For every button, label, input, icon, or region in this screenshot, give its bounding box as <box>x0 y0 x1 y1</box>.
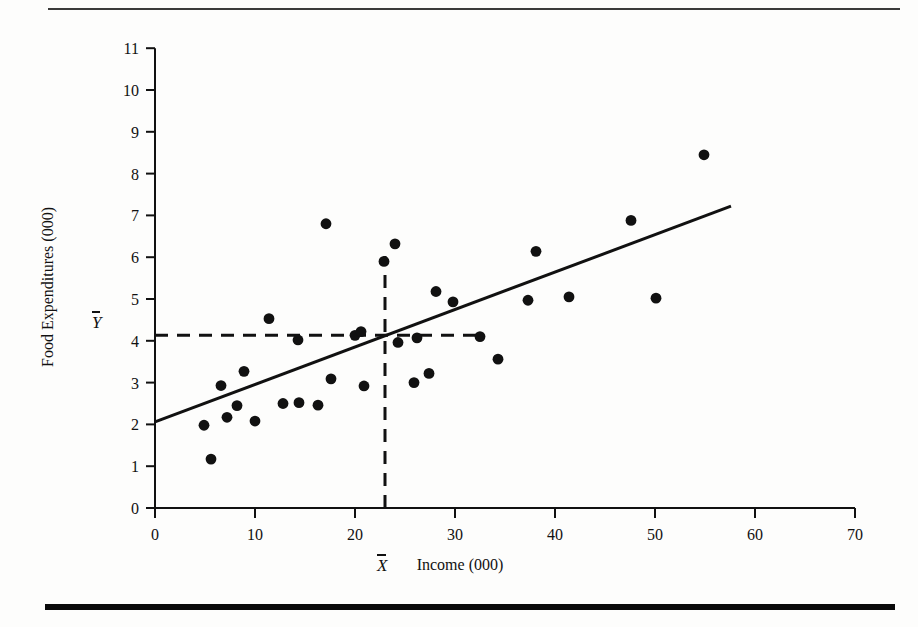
data-point <box>409 377 420 388</box>
y-axis-label: Food Expenditures (000) <box>39 177 57 397</box>
data-point <box>390 238 401 249</box>
y-tick-label: 0 <box>131 500 139 517</box>
x-tick-label: 0 <box>151 526 159 543</box>
data-point <box>651 293 662 304</box>
data-point <box>523 295 534 306</box>
x-tick-label: 60 <box>747 526 763 543</box>
x-mean-label: X <box>377 556 387 576</box>
y-tick-label: 6 <box>131 249 139 266</box>
y-tick-label: 9 <box>131 124 139 141</box>
data-point <box>199 420 210 431</box>
data-point <box>448 297 459 308</box>
data-point <box>356 326 367 337</box>
data-point <box>699 149 710 160</box>
data-point <box>294 397 305 408</box>
data-point <box>626 215 637 226</box>
x-tick-label: 50 <box>647 526 663 543</box>
data-point <box>250 416 261 427</box>
y-tick-label: 2 <box>131 416 139 433</box>
data-point <box>313 400 324 411</box>
y-tick-label: 5 <box>131 291 139 308</box>
regression-line <box>155 206 731 422</box>
x-tick-label: 40 <box>547 526 563 543</box>
data-point <box>431 286 442 297</box>
y-tick-label: 8 <box>131 166 139 183</box>
scatter-plot-figure: 01234567891011 010203040506070 <box>0 0 918 627</box>
x-tick-label: 70 <box>847 526 863 543</box>
data-point <box>264 313 275 324</box>
y-axis-ticks: 01234567891011 <box>123 40 155 517</box>
data-point <box>531 246 542 257</box>
data-point <box>239 366 250 377</box>
axes-lines <box>155 48 855 508</box>
y-tick-label: 1 <box>131 458 139 475</box>
x-axis-label: Income (000) <box>417 556 504 574</box>
x-tick-label: 30 <box>447 526 463 543</box>
y-tick-label: 3 <box>131 375 139 392</box>
y-mean-label-text: Y <box>92 313 101 333</box>
x-mean-label-text: X <box>377 556 387 576</box>
x-tick-label: 20 <box>347 526 363 543</box>
figure-page: 01234567891011 010203040506070 Food Expe… <box>0 0 918 627</box>
data-point <box>493 354 504 365</box>
data-points <box>199 149 710 464</box>
y-tick-label: 10 <box>123 82 139 99</box>
data-point <box>326 373 337 384</box>
data-point <box>206 454 217 465</box>
y-tick-label: 11 <box>124 40 139 57</box>
data-point <box>222 412 233 423</box>
data-point <box>412 332 423 343</box>
data-point <box>424 368 435 379</box>
data-point <box>475 331 486 342</box>
data-point <box>359 381 370 392</box>
data-point <box>321 218 332 229</box>
y-tick-label: 7 <box>131 207 139 224</box>
data-point <box>293 335 304 346</box>
y-mean-label: Y <box>92 313 101 333</box>
x-axis-ticks: 010203040506070 <box>151 508 863 543</box>
data-point <box>393 337 404 348</box>
data-point <box>216 380 227 391</box>
data-point <box>564 292 575 303</box>
data-point <box>379 256 390 267</box>
data-point <box>232 400 243 411</box>
y-tick-label: 4 <box>131 333 139 350</box>
x-tick-label: 10 <box>247 526 263 543</box>
data-point <box>278 398 289 409</box>
